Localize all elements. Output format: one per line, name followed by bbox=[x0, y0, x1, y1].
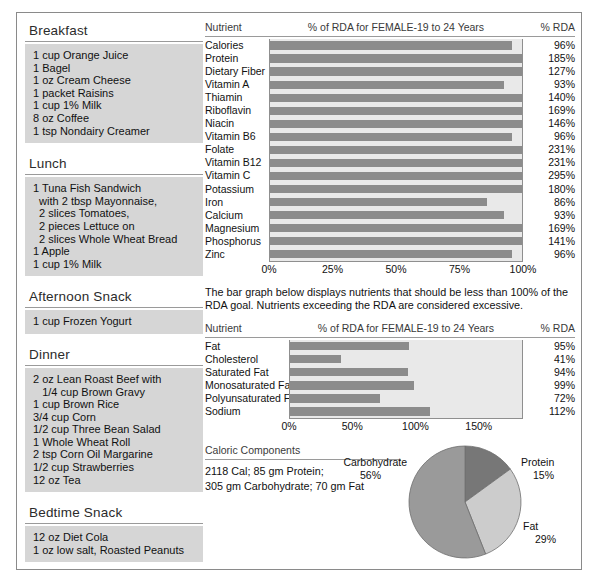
bar-value-label: 72% bbox=[523, 392, 575, 405]
meal-item: 3/4 cup Corn bbox=[33, 411, 195, 424]
meal-item: 1 Whole Wheat Roll bbox=[33, 436, 195, 449]
axis-tick-label: 25% bbox=[322, 263, 343, 275]
meal-item: 1 cup 1% Milk bbox=[33, 99, 195, 112]
bar bbox=[270, 211, 504, 219]
meal-items: 12 oz Diet Cola1 oz low salt, Roasted Pe… bbox=[25, 526, 203, 562]
meal-item: 2 slices Whole Wheat Bread bbox=[33, 233, 195, 246]
axis-tick-label: 75% bbox=[449, 263, 470, 275]
meal-heading: Afternoon Snack bbox=[25, 287, 203, 308]
rda-category-labels: CaloriesProteinDietary FiberVitamin AThi… bbox=[205, 39, 269, 261]
bar-value-label: 96% bbox=[523, 39, 575, 52]
bar-row bbox=[270, 104, 522, 117]
meal-items: 1 cup Orange Juice1 Bagel1 oz Cream Chee… bbox=[25, 44, 203, 143]
bar-value-label: 231% bbox=[523, 156, 575, 169]
bar bbox=[270, 224, 522, 232]
bar-row bbox=[290, 366, 522, 379]
chart-note: The bar graph below displays nutrients t… bbox=[205, 286, 575, 313]
bar bbox=[290, 394, 380, 402]
rda-plot-area bbox=[269, 39, 523, 261]
bar bbox=[270, 120, 522, 128]
bar bbox=[270, 198, 487, 206]
meal-items: 1 Tuna Fish Sandwich with 2 tbsp Mayonna… bbox=[25, 177, 203, 276]
bar-row bbox=[270, 143, 522, 156]
meal-group: Breakfast1 cup Orange Juice1 Bagel1 oz C… bbox=[25, 21, 203, 143]
bar-category-label: Calcium bbox=[205, 209, 269, 222]
bar-row bbox=[270, 183, 522, 196]
bar-value-label: 140% bbox=[523, 91, 575, 104]
bar-category-label: Cholesterol bbox=[205, 353, 289, 366]
meal-item: 12 oz Tea bbox=[33, 474, 195, 487]
bar-category-label: Fat bbox=[205, 340, 289, 353]
bar-row bbox=[270, 78, 522, 91]
bar-category-label: Polyunsaturated Fat bbox=[205, 392, 289, 405]
meal-group: Afternoon Snack1 cup Frozen Yogurt bbox=[25, 287, 203, 334]
bar-row bbox=[270, 39, 522, 52]
bar-value-label: 231% bbox=[523, 143, 575, 156]
rda-chart-section: Nutrient % of RDA for FEMALE-19 to 24 Ye… bbox=[205, 21, 575, 277]
axis-tick-label: 100% bbox=[510, 263, 537, 275]
bar-value-label: 295% bbox=[523, 169, 575, 182]
bar-category-label: Saturated Fat bbox=[205, 366, 289, 379]
bar-value-label: 127% bbox=[523, 65, 575, 78]
bar-category-label: Magnesium bbox=[205, 222, 269, 235]
chart-title-2: % of RDA for FEMALE-19 to 24 Years bbox=[289, 322, 523, 334]
limit-x-axis: 0%50%100%150% bbox=[289, 418, 523, 434]
meal-item: 1 cup 1% Milk bbox=[33, 258, 195, 271]
meal-item: 12 oz Diet Cola bbox=[33, 531, 195, 544]
meal-item: 2 tsp Corn Oil Margarine bbox=[33, 448, 195, 461]
meal-item: 2 pieces Lettuce on bbox=[33, 220, 195, 233]
bar-row bbox=[290, 392, 522, 405]
meal-item: 1 oz Cream Cheese bbox=[33, 74, 195, 87]
meal-group: Lunch1 Tuna Fish Sandwich with 2 tbsp Ma… bbox=[25, 154, 203, 276]
meal-items: 2 oz Lean Roast Beef with 1/4 cup Brown … bbox=[25, 368, 203, 492]
bar bbox=[270, 133, 512, 141]
bar-value-label: 41% bbox=[523, 353, 575, 366]
bar-row bbox=[270, 91, 522, 104]
bar bbox=[270, 41, 512, 49]
bar-value-label: 94% bbox=[523, 366, 575, 379]
pie-label-protein: Protein15% bbox=[521, 456, 554, 481]
meal-item: 1 cup Brown Rice bbox=[33, 398, 195, 411]
bar bbox=[270, 54, 522, 62]
bar-row bbox=[270, 222, 522, 235]
bar bbox=[270, 94, 522, 102]
pie-chart: Carbohydrate56%Protein15%Fat29% bbox=[355, 440, 575, 564]
meal-item: 8 oz Coffee bbox=[33, 112, 195, 125]
rda-value-labels: 96%185%127%93%140%169%146%96%231%231%295… bbox=[523, 39, 575, 261]
bar-category-label: Sodium bbox=[205, 405, 289, 418]
pie-label-fat: Fat29% bbox=[523, 520, 556, 545]
rda-x-axis: 0%25%50%75%100% bbox=[269, 261, 523, 277]
bar-category-label: Thiamin bbox=[205, 91, 269, 104]
caloric-components-section: Caloric Components 2118 Cal; 85 gm Prote… bbox=[205, 444, 575, 564]
bar-category-label: Vitamin A bbox=[205, 78, 269, 91]
limit-chart-section: Nutrient % of RDA for FEMALE-19 to 24 Ye… bbox=[205, 322, 575, 434]
bar bbox=[270, 250, 512, 258]
axis-tick-label: 0% bbox=[281, 420, 296, 432]
bar-row bbox=[290, 353, 522, 366]
bar-category-label: Protein bbox=[205, 52, 269, 65]
bar bbox=[270, 237, 522, 245]
bar-category-label: Vitamin B6 bbox=[205, 130, 269, 143]
bar-row bbox=[270, 209, 522, 222]
column-header-rda: % RDA bbox=[523, 21, 575, 33]
bar bbox=[270, 81, 504, 89]
meal-group: Bedtime Snack12 oz Diet Cola1 oz low sal… bbox=[25, 503, 203, 562]
bar-row bbox=[290, 340, 522, 353]
bar bbox=[270, 146, 522, 154]
meal-item: 1/2 cup Three Bean Salad bbox=[33, 423, 195, 436]
bar bbox=[270, 107, 522, 115]
axis-tick-label: 100% bbox=[402, 420, 429, 432]
bar-value-label: 141% bbox=[523, 235, 575, 248]
bar-row bbox=[270, 248, 522, 261]
bar bbox=[270, 67, 522, 75]
bar-value-label: 146% bbox=[523, 117, 575, 130]
meal-item: 1 Tuna Fish Sandwich bbox=[33, 182, 195, 195]
bar bbox=[290, 407, 430, 415]
bar bbox=[270, 159, 522, 167]
meal-group: Dinner2 oz Lean Roast Beef with 1/4 cup … bbox=[25, 345, 203, 492]
bar-value-label: 96% bbox=[523, 130, 575, 143]
limit-chart-header: Nutrient % of RDA for FEMALE-19 to 24 Ye… bbox=[205, 322, 575, 338]
analysis-column: Nutrient % of RDA for FEMALE-19 to 24 Ye… bbox=[205, 21, 575, 564]
bar-category-label: Riboflavin bbox=[205, 104, 269, 117]
meal-item: 1 cup Frozen Yogurt bbox=[33, 315, 195, 328]
